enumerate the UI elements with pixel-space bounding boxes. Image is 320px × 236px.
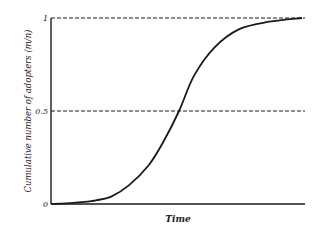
y-tick-label: 0.5	[35, 107, 48, 116]
chart: 00.51 Time Cumulative number of adopters…	[0, 0, 320, 236]
y-tick-labels: 00.51	[35, 14, 48, 209]
y-axis-title: Cumulative number of adopters (m/n)	[23, 30, 33, 193]
reference-lines	[51, 18, 305, 111]
x-axis-title: Time	[165, 214, 191, 224]
y-tick-label: 1	[43, 14, 48, 23]
y-tick-label: 0	[43, 200, 48, 209]
